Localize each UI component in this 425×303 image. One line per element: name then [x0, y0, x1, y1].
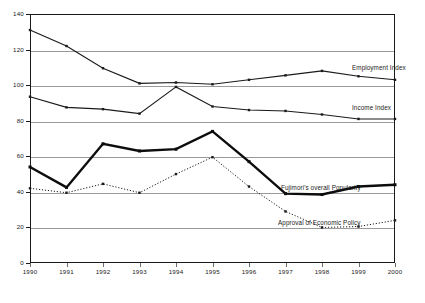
data-point-marker [248, 79, 250, 81]
data-point-marker [175, 173, 177, 175]
series-annotation: Approval of Economic Policy [278, 219, 361, 226]
data-point-marker [175, 148, 178, 151]
data-point-marker [138, 82, 140, 84]
data-point-marker [65, 45, 67, 47]
data-point-marker [211, 130, 214, 133]
data-point-marker [102, 67, 104, 69]
data-point-marker [321, 226, 323, 228]
data-point-marker [211, 83, 213, 85]
data-point-marker [65, 192, 67, 194]
series-layer [0, 0, 425, 303]
series-line [30, 157, 395, 227]
data-point-marker [138, 192, 140, 194]
data-point-marker [65, 106, 67, 108]
data-point-marker [284, 192, 287, 195]
data-point-marker [175, 86, 177, 88]
data-point-marker [357, 75, 359, 77]
data-point-marker [321, 193, 324, 196]
data-point-marker [321, 113, 323, 115]
data-point-marker [248, 185, 250, 187]
data-point-marker [321, 70, 323, 72]
data-point-marker [211, 156, 213, 158]
data-point-marker [29, 187, 31, 189]
data-point-marker [65, 186, 68, 189]
series-income-index [29, 86, 396, 120]
data-point-marker [29, 165, 32, 168]
data-point-marker [102, 142, 105, 145]
series-line [30, 87, 395, 119]
data-point-marker [357, 118, 359, 120]
data-point-marker [138, 112, 140, 114]
series-annotation: Employment Index [352, 64, 406, 71]
data-point-marker [284, 210, 286, 212]
data-point-marker [102, 183, 104, 185]
series-annotation: Income Index [352, 104, 391, 111]
data-point-marker [394, 219, 396, 221]
data-point-marker [394, 118, 396, 120]
data-point-marker [211, 105, 213, 107]
data-point-marker [175, 81, 177, 83]
data-point-marker [29, 96, 31, 98]
data-point-marker [248, 109, 250, 111]
data-point-marker [394, 79, 396, 81]
series-annotation: Fujimori's overall Popularity [281, 184, 361, 191]
data-point-marker [284, 110, 286, 112]
data-point-marker [284, 74, 286, 76]
data-point-marker [248, 160, 251, 163]
series-employment-index [29, 29, 396, 86]
line-chart: 020406080100120140 199019911992199319941… [0, 0, 425, 303]
data-point-marker [138, 149, 141, 152]
data-point-marker [29, 29, 31, 31]
series-line [30, 30, 395, 84]
data-point-marker [102, 108, 104, 110]
data-point-marker [394, 183, 397, 186]
